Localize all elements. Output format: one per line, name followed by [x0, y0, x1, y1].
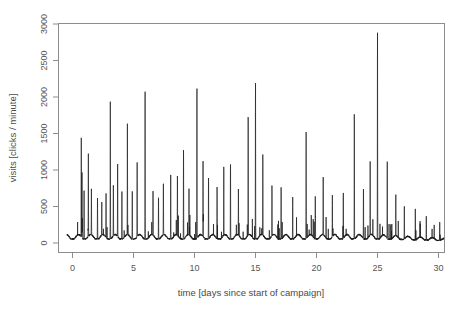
- y-tick-label: 1000: [39, 160, 49, 180]
- y-tick-label: 2500: [39, 50, 49, 70]
- y-tick-label: 2000: [39, 87, 49, 107]
- visits-time-series-chart: 3000 2500 2000 1500 1000 500 0 visits [c…: [0, 0, 463, 311]
- x-tick-label: 10: [189, 263, 199, 273]
- x-axis-title: time [days since start of campaign]: [178, 287, 324, 298]
- x-tick-label: 30: [433, 263, 443, 273]
- x-tick-label: 20: [311, 263, 321, 273]
- y-tick-label: 3000: [39, 14, 49, 34]
- y-tick-label: 0: [39, 240, 49, 245]
- y-tick-label: 500: [39, 199, 49, 214]
- y-tick-label: 1500: [39, 123, 49, 143]
- y-axis-title: visits [clicks / minute]: [7, 94, 18, 183]
- x-tick-label: 15: [250, 263, 260, 273]
- x-tick-label: 5: [131, 263, 136, 273]
- x-tick-label: 0: [70, 263, 75, 273]
- x-tick-label: 25: [372, 263, 382, 273]
